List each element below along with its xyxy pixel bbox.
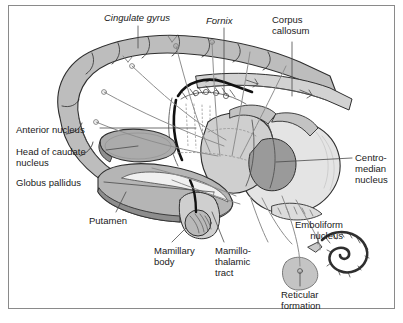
label-emboliform-nucleus: Emboliform nucleus [273, 219, 343, 241]
label-fornix: Fornix [206, 15, 232, 26]
label-anterior-nucleus: Anterior nucleus [16, 124, 85, 135]
label-cingulate-gyrus: Cingulate gyrus [104, 12, 170, 23]
head-of-caudate-nucleus-shape [99, 129, 176, 162]
label-mamillothalamic-tract: Mamillo- thalamic tract [215, 245, 251, 278]
label-putamen: Putamen [89, 215, 127, 226]
label-reticular-formation: Reticular formation [281, 289, 321, 311]
label-corpus-callosum: Corpus callosum [272, 14, 310, 36]
label-globus-pallidus: Globus pallidus [16, 177, 81, 188]
anatomical-figure: Cingulate gyrus Fornix Corpus callosum A… [0, 0, 403, 323]
label-centromedian-nucleus: Centro- median nucleus [355, 152, 388, 185]
label-mamillary-body: Mamillary body [154, 245, 195, 267]
label-head-of-caudate-nucleus: Head of caudate nucleus [16, 146, 86, 168]
